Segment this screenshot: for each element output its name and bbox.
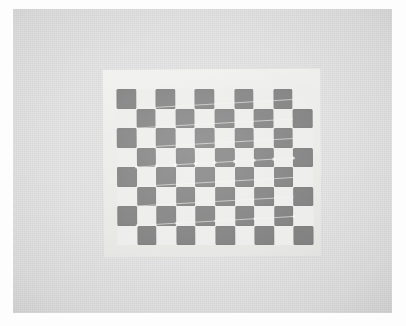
checker-square-light bbox=[136, 89, 156, 108]
checker-square-dark bbox=[156, 206, 176, 225]
checker-square-dark bbox=[254, 186, 274, 205]
checker-square-dark bbox=[195, 89, 215, 108]
checkerboard-grid bbox=[116, 89, 313, 245]
checker-square-dark bbox=[175, 109, 195, 128]
checker-square-light bbox=[254, 89, 274, 108]
checker-square-dark bbox=[195, 128, 215, 147]
checker-square-light bbox=[137, 206, 157, 225]
checker-square-dark bbox=[176, 225, 196, 244]
checker-square-dark bbox=[254, 148, 274, 167]
checker-square-light bbox=[117, 148, 137, 167]
checker-square-dark bbox=[176, 186, 196, 205]
checker-square-light bbox=[157, 225, 177, 244]
checker-square-dark bbox=[136, 109, 156, 128]
checker-square-dark bbox=[234, 128, 254, 147]
checker-square-light bbox=[274, 186, 294, 205]
checker-square-dark bbox=[274, 206, 294, 225]
calibration-photograph bbox=[13, 9, 392, 313]
checker-square-dark bbox=[196, 206, 216, 225]
checker-square-dark bbox=[215, 186, 235, 205]
checker-square-light bbox=[274, 225, 294, 244]
checker-square-light bbox=[254, 167, 274, 186]
checker-square-dark bbox=[176, 148, 196, 167]
checker-square-dark bbox=[293, 148, 313, 167]
checker-square-dark bbox=[195, 167, 215, 186]
checkerboard-pattern bbox=[116, 89, 313, 245]
checker-square-light bbox=[176, 128, 196, 147]
checker-square-light bbox=[156, 186, 176, 205]
checker-square-light bbox=[294, 206, 314, 225]
checker-square-dark bbox=[215, 148, 235, 167]
checker-square-light bbox=[234, 148, 254, 167]
checker-square-light bbox=[215, 167, 235, 186]
checker-square-light bbox=[195, 109, 215, 128]
checker-square-light bbox=[195, 148, 215, 167]
checker-square-light bbox=[273, 109, 293, 128]
checker-square-dark bbox=[215, 109, 235, 128]
checker-square-light bbox=[117, 109, 137, 128]
checker-square-light bbox=[215, 206, 235, 225]
checker-square-light bbox=[293, 89, 313, 108]
checker-square-light bbox=[254, 206, 274, 225]
screenshot-root bbox=[0, 0, 406, 326]
checker-square-dark bbox=[254, 109, 274, 128]
checker-square-dark bbox=[294, 225, 314, 244]
checker-square-dark bbox=[273, 89, 293, 108]
checker-square-dark bbox=[117, 206, 137, 225]
checker-square-light bbox=[234, 109, 254, 128]
checker-square-light bbox=[254, 128, 274, 147]
checker-square-dark bbox=[274, 167, 294, 186]
checker-square-dark bbox=[255, 225, 275, 244]
checker-square-dark bbox=[116, 89, 136, 108]
checker-square-dark bbox=[274, 128, 294, 147]
checker-square-dark bbox=[156, 89, 176, 108]
checker-square-dark bbox=[294, 186, 314, 205]
checker-square-light bbox=[196, 186, 216, 205]
checker-square-light bbox=[215, 128, 235, 147]
checker-square-light bbox=[293, 128, 313, 147]
checker-square-dark bbox=[137, 225, 157, 244]
checker-square-light bbox=[274, 148, 294, 167]
checker-square-light bbox=[176, 206, 196, 225]
checker-square-light bbox=[117, 186, 137, 205]
checker-square-dark bbox=[156, 128, 176, 147]
checker-square-light bbox=[214, 89, 234, 108]
checker-square-light bbox=[176, 167, 196, 186]
checker-square-dark bbox=[156, 167, 176, 186]
checker-square-light bbox=[156, 148, 176, 167]
checker-square-dark bbox=[136, 148, 156, 167]
checker-square-dark bbox=[235, 167, 255, 186]
checker-square-dark bbox=[215, 225, 235, 244]
checker-square-dark bbox=[137, 186, 157, 205]
checker-square-dark bbox=[117, 128, 137, 147]
checker-square-light bbox=[235, 225, 255, 244]
checker-square-light bbox=[117, 225, 137, 244]
checker-square-dark bbox=[234, 89, 254, 108]
checker-square-light bbox=[293, 167, 313, 186]
checker-square-light bbox=[136, 128, 156, 147]
checker-square-light bbox=[156, 109, 176, 128]
checker-square-dark bbox=[117, 167, 137, 186]
checker-square-light bbox=[196, 225, 216, 244]
checker-square-light bbox=[175, 89, 195, 108]
checker-square-dark bbox=[293, 109, 313, 128]
checker-square-dark bbox=[235, 206, 255, 225]
checker-square-light bbox=[137, 167, 157, 186]
checker-square-light bbox=[235, 186, 255, 205]
